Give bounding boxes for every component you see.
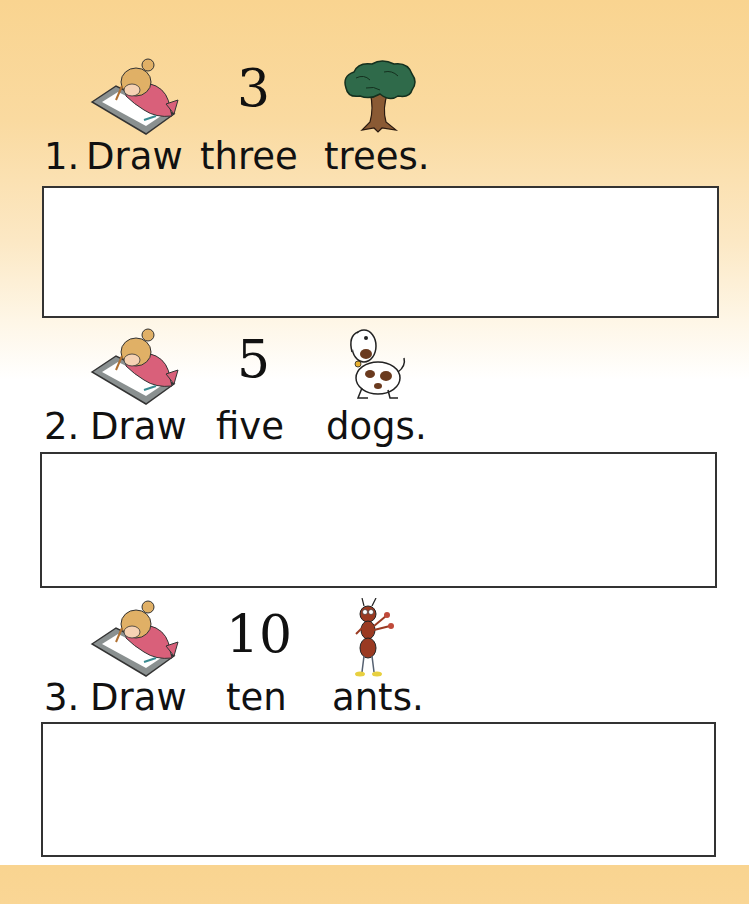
numeral: 3 [237, 62, 270, 114]
verb: Draw [90, 679, 187, 716]
dog-icon [344, 326, 410, 402]
object-word: trees. [324, 138, 429, 175]
number-word: three [200, 138, 298, 175]
drawing-area[interactable] [40, 452, 717, 588]
number-word: five [216, 408, 284, 445]
girl-drawing-icon [86, 598, 182, 678]
object-word: dogs. [326, 408, 427, 445]
girl-drawing-icon [86, 326, 182, 406]
item-number: 2. [44, 408, 79, 445]
girl-drawing-icon [86, 56, 182, 136]
tree-icon [340, 58, 418, 134]
verb: Draw [90, 408, 187, 445]
item-number: 1. [44, 138, 79, 175]
drawing-area[interactable] [41, 722, 716, 857]
ant-icon [350, 598, 400, 678]
verb: Draw [86, 138, 183, 175]
drawing-area[interactable] [42, 186, 719, 318]
numeral: 5 [237, 333, 270, 385]
item-number: 3. [44, 679, 79, 716]
object-word: ants. [332, 679, 424, 716]
number-word: ten [226, 679, 287, 716]
numeral: 10 [226, 608, 292, 660]
